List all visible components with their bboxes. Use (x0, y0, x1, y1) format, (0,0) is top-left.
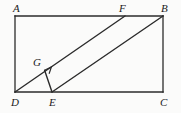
perpendicular-EG-line (45, 70, 52, 92)
vertex-label-D: D (11, 97, 19, 108)
vertex-label-G: G (33, 57, 41, 68)
vertex-label-C: C (160, 97, 167, 108)
figure-canvas (0, 0, 181, 113)
geometry-figure: A B C D E F G (0, 0, 181, 113)
vertex-label-E: E (49, 97, 56, 108)
vertex-label-B: B (161, 3, 168, 14)
vertex-label-F: F (119, 3, 126, 14)
vertex-label-A: A (13, 3, 20, 14)
